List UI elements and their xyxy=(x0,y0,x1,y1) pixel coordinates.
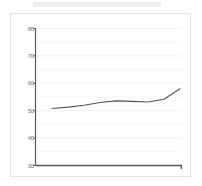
y-tick-label-60: 60 xyxy=(18,80,34,86)
y-tick-label-50: 50 xyxy=(18,108,34,114)
y-tick-label-30: 30 xyxy=(18,163,34,169)
x-axis xyxy=(36,166,183,170)
y-tick-label-80: 80 xyxy=(18,26,34,32)
y-tick-label-70: 70 xyxy=(18,53,34,59)
y-axis xyxy=(33,28,36,166)
y-tick-label-40: 40 xyxy=(18,135,34,141)
chart-screenshot: 80 70 60 50 40 30 xyxy=(0,0,202,186)
series-1-line xyxy=(52,89,180,109)
gridlines xyxy=(36,29,182,152)
